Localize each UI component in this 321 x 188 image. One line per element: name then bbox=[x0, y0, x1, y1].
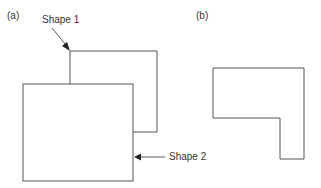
diagram-canvas bbox=[0, 0, 321, 188]
shape1-arrowhead-icon bbox=[62, 42, 70, 51]
combined-shape-outline bbox=[213, 68, 304, 159]
shape1-arrow-line bbox=[52, 28, 66, 45]
shape2-arrowhead-icon bbox=[134, 154, 141, 161]
shape2-outline bbox=[23, 84, 133, 181]
